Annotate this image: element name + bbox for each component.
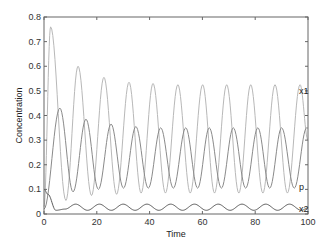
y-axis-ticks: 00.10.20.30.40.50.60.70.8 (28, 12, 308, 219)
series-label-x1: x1 (299, 86, 309, 96)
series-lines (44, 27, 308, 210)
x-tick-label: 80 (250, 217, 260, 227)
y-tick-label: 0.3 (28, 135, 41, 145)
y-tick-label: 0.7 (28, 37, 41, 47)
concentration-time-chart: 020406080100 00.10.20.30.40.50.60.70.8 x… (0, 0, 330, 250)
y-tick-label: 0.2 (28, 160, 41, 170)
x-tick-label: 20 (92, 217, 102, 227)
x-axis-label: Time (166, 229, 186, 239)
x-axis-ticks: 020406080100 (41, 17, 315, 227)
y-tick-label: 0.8 (28, 12, 41, 22)
x-tick-label: 60 (197, 217, 207, 227)
series-line-x2 (44, 189, 308, 210)
y-tick-label: 0.6 (28, 61, 41, 71)
y-tick-label: 0.1 (28, 184, 41, 194)
y-axis-label: Concentration (14, 87, 24, 143)
y-tick-label: 0 (36, 209, 41, 219)
y-tick-label: 0.5 (28, 86, 41, 96)
x-tick-label: 40 (145, 217, 155, 227)
series-line-p (44, 108, 308, 209)
x-tick-label: 0 (41, 217, 46, 227)
y-tick-label: 0.4 (28, 111, 41, 121)
series-label-p: p (299, 182, 304, 192)
x-tick-label: 100 (300, 217, 315, 227)
series-label-x2: x2 (299, 204, 309, 214)
